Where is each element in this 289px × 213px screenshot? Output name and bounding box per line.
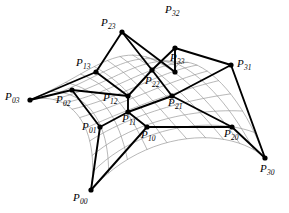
control-point-marker-P32[interactable] bbox=[172, 45, 177, 50]
label-subscript-P30: 30 bbox=[267, 168, 275, 177]
control-net-edge-P21-P31 bbox=[172, 65, 231, 96]
label-subscript-P21: 21 bbox=[175, 102, 183, 111]
control-point-marker-P23[interactable] bbox=[119, 29, 124, 34]
label-subscript-P23: 23 bbox=[108, 22, 116, 31]
label-subscript-P31: 31 bbox=[244, 63, 252, 72]
control-point-marker-P33[interactable] bbox=[172, 69, 177, 74]
control-point-label-P31: P31 bbox=[237, 58, 251, 69]
bezier-surface-figure: P00P01P02P03P10P11P12P13P20P21P22P23P30P… bbox=[0, 0, 289, 213]
label-base-P10: P bbox=[141, 128, 148, 140]
control-point-marker-P22[interactable] bbox=[149, 67, 154, 72]
label-subscript-P13: 13 bbox=[83, 62, 91, 71]
control-point-label-P12: P12 bbox=[103, 92, 117, 103]
control-point-marker-P13[interactable] bbox=[93, 69, 98, 74]
control-point-label-P03: P03 bbox=[5, 91, 19, 102]
label-base-P00: P bbox=[73, 191, 80, 203]
label-subscript-P22: 22 bbox=[152, 80, 160, 89]
control-point-marker-P30[interactable] bbox=[262, 155, 267, 160]
label-subscript-P00: 00 bbox=[80, 197, 88, 206]
label-base-P32: P bbox=[165, 3, 172, 15]
control-net-edge-P13-P23 bbox=[96, 32, 122, 72]
control-point-label-P32: P32 bbox=[165, 4, 179, 15]
control-net-edge-P30-P31 bbox=[231, 65, 265, 158]
label-subscript-P11: 11 bbox=[129, 118, 136, 127]
label-base-P21: P bbox=[168, 96, 175, 108]
control-net-edge-P02-P12 bbox=[72, 90, 128, 96]
iso-v-curve bbox=[91, 138, 265, 190]
label-base-P22: P bbox=[145, 74, 152, 86]
label-subscript-P12: 12 bbox=[110, 97, 118, 106]
iso-u-curve bbox=[30, 98, 93, 190]
control-point-label-P00: P00 bbox=[73, 192, 87, 203]
label-subscript-P02: 02 bbox=[63, 99, 71, 108]
control-point-marker-P12[interactable] bbox=[125, 93, 130, 98]
control-point-label-P30: P30 bbox=[260, 163, 274, 174]
control-point-label-P23: P23 bbox=[101, 17, 115, 28]
label-base-P02: P bbox=[56, 93, 63, 105]
control-point-label-P20: P20 bbox=[224, 128, 238, 139]
control-point-label-P01: P01 bbox=[82, 121, 96, 132]
label-base-P03: P bbox=[5, 90, 12, 102]
control-point-marker-P02[interactable] bbox=[69, 87, 74, 92]
label-subscript-P33: 33 bbox=[177, 57, 185, 66]
label-subscript-P20: 20 bbox=[231, 133, 239, 142]
control-point-label-P33: P33 bbox=[170, 52, 184, 63]
label-subscript-P03: 03 bbox=[12, 96, 20, 105]
label-base-P23: P bbox=[101, 16, 108, 28]
control-point-label-P02: P02 bbox=[56, 94, 70, 105]
control-net-edge-P11-P21 bbox=[128, 96, 172, 112]
figure-canvas bbox=[0, 0, 289, 213]
control-point-marker-P00[interactable] bbox=[88, 187, 93, 192]
label-base-P12: P bbox=[103, 91, 110, 103]
control-point-label-P21: P21 bbox=[168, 97, 182, 108]
control-point-marker-P03[interactable] bbox=[27, 97, 32, 102]
label-base-P31: P bbox=[237, 57, 244, 69]
label-subscript-P01: 01 bbox=[89, 126, 97, 135]
label-base-P01: P bbox=[82, 120, 89, 132]
control-point-label-P22: P22 bbox=[145, 75, 159, 86]
label-base-P13: P bbox=[76, 56, 83, 68]
control-point-label-P11: P11 bbox=[122, 113, 136, 124]
label-base-P33: P bbox=[170, 51, 177, 63]
control-point-label-P10: P10 bbox=[141, 129, 155, 140]
control-point-marker-P31[interactable] bbox=[228, 62, 233, 67]
label-base-P11: P bbox=[122, 112, 129, 124]
label-base-P20: P bbox=[224, 127, 231, 139]
control-point-marker-P01[interactable] bbox=[97, 124, 102, 129]
label-subscript-P32: 32 bbox=[172, 9, 180, 18]
control-point-label-P13: P13 bbox=[76, 57, 90, 68]
label-base-P30: P bbox=[260, 162, 267, 174]
label-subscript-P10: 10 bbox=[148, 134, 156, 143]
